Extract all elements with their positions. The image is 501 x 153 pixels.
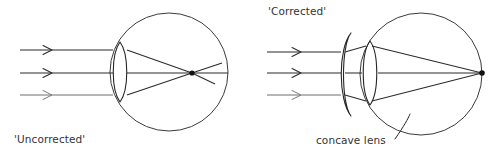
diagram-canvas: 'Uncorrected' bbox=[0, 0, 501, 153]
crystalline-lens-uncorrected bbox=[113, 42, 127, 102]
corrected-panel: 'Corrected' concave lens bbox=[267, 5, 485, 146]
refracted-ray-bottom-corrected bbox=[372, 73, 482, 101]
label-uncorrected: 'Uncorrected' bbox=[14, 133, 85, 145]
refracted-ray-top-corrected bbox=[372, 46, 482, 73]
diverging-ray-lower-uncorrected bbox=[192, 73, 215, 84]
concave-lens-leader-line bbox=[395, 114, 410, 139]
diverged-ray-top-corrected bbox=[345, 46, 366, 52]
diverged-ray-bottom-corrected bbox=[345, 95, 366, 101]
concave-lens-shape bbox=[341, 33, 351, 116]
refracted-ray-top-uncorrected bbox=[127, 50, 192, 73]
myopia-diagram-figure: 'Uncorrected' bbox=[0, 0, 501, 153]
crystalline-lens-corrected bbox=[363, 41, 377, 105]
refracted-ray-bottom-uncorrected bbox=[127, 73, 192, 95]
uncorrected-panel: 'Uncorrected' bbox=[14, 13, 228, 145]
diverging-ray-upper-uncorrected bbox=[192, 63, 222, 73]
label-concave-lens: concave lens bbox=[316, 134, 386, 146]
eyeball-circle-corrected bbox=[360, 13, 482, 135]
focal-point-marker-uncorrected bbox=[189, 70, 194, 75]
eyeball-circle-uncorrected bbox=[110, 13, 228, 131]
label-corrected: 'Corrected' bbox=[268, 5, 326, 17]
focal-point-marker-corrected bbox=[479, 70, 485, 76]
